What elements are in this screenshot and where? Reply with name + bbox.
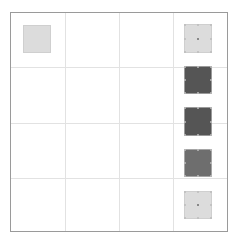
resize-handle[interactable] xyxy=(197,92,199,94)
square-shape-3[interactable] xyxy=(184,66,212,94)
resize-handle[interactable] xyxy=(197,107,199,109)
resize-handle[interactable] xyxy=(210,38,212,40)
grid-row-divider xyxy=(11,178,227,179)
resize-handle[interactable] xyxy=(197,175,199,177)
resize-handle[interactable] xyxy=(210,204,212,206)
resize-handle[interactable] xyxy=(184,79,186,81)
resize-handle[interactable] xyxy=(184,217,186,219)
resize-handle[interactable] xyxy=(210,149,212,151)
resize-handle[interactable] xyxy=(197,149,199,151)
resize-handle[interactable] xyxy=(184,204,186,206)
resize-handle[interactable] xyxy=(210,79,212,81)
resize-handle[interactable] xyxy=(210,51,212,53)
resize-handle[interactable] xyxy=(184,175,186,177)
resize-handle[interactable] xyxy=(210,107,212,109)
center-point-icon xyxy=(197,204,199,206)
resize-handle[interactable] xyxy=(197,134,199,136)
square-shape-2[interactable] xyxy=(184,24,212,53)
resize-handle[interactable] xyxy=(197,191,199,193)
resize-handle[interactable] xyxy=(184,107,186,109)
resize-handle[interactable] xyxy=(184,149,186,151)
resize-handle[interactable] xyxy=(210,175,212,177)
grid-column-divider xyxy=(173,13,174,231)
square-shape-1[interactable] xyxy=(23,25,51,53)
design-canvas[interactable] xyxy=(0,0,233,242)
resize-handle[interactable] xyxy=(197,217,199,219)
resize-handle[interactable] xyxy=(210,66,212,68)
resize-handle[interactable] xyxy=(184,121,186,123)
resize-handle[interactable] xyxy=(210,191,212,193)
resize-handle[interactable] xyxy=(210,134,212,136)
resize-handle[interactable] xyxy=(184,191,186,193)
square-shape-5[interactable] xyxy=(184,149,212,177)
resize-handle[interactable] xyxy=(210,217,212,219)
resize-handle[interactable] xyxy=(184,51,186,53)
center-point-icon xyxy=(197,38,199,40)
square-shape-6[interactable] xyxy=(184,191,212,219)
grid-column-divider xyxy=(119,13,120,231)
square-shape-4[interactable] xyxy=(184,107,212,136)
resize-handle[interactable] xyxy=(210,92,212,94)
resize-handle[interactable] xyxy=(210,121,212,123)
resize-handle[interactable] xyxy=(184,38,186,40)
resize-handle[interactable] xyxy=(184,92,186,94)
resize-handle[interactable] xyxy=(184,24,186,26)
resize-handle[interactable] xyxy=(184,66,186,68)
resize-handle[interactable] xyxy=(184,134,186,136)
grid-column-divider xyxy=(65,13,66,231)
resize-handle[interactable] xyxy=(210,24,212,26)
resize-handle[interactable] xyxy=(184,162,186,164)
resize-handle[interactable] xyxy=(197,66,199,68)
resize-handle[interactable] xyxy=(197,51,199,53)
resize-handle[interactable] xyxy=(210,162,212,164)
resize-handle[interactable] xyxy=(197,24,199,26)
